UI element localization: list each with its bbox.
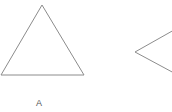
diagram-canvas <box>0 0 172 112</box>
angle-shape-b <box>135 30 172 73</box>
triangle-a <box>1 5 84 75</box>
figure-label-a: A <box>36 99 42 108</box>
